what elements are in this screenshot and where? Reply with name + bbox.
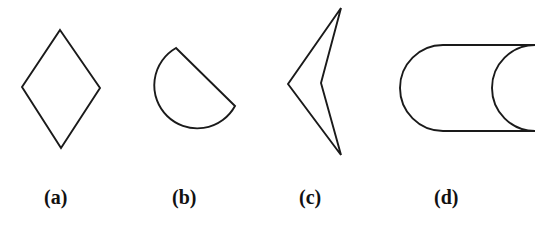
caption-row: (a) (b) (c) (d) (0, 183, 546, 219)
caption-a: (a) (44, 183, 67, 211)
figure-page: (a) (b) (c) (d) (0, 0, 546, 235)
caption-c: (c) (299, 183, 321, 211)
caption-b: (b) (172, 183, 196, 211)
caption-d: (d) (434, 183, 458, 211)
